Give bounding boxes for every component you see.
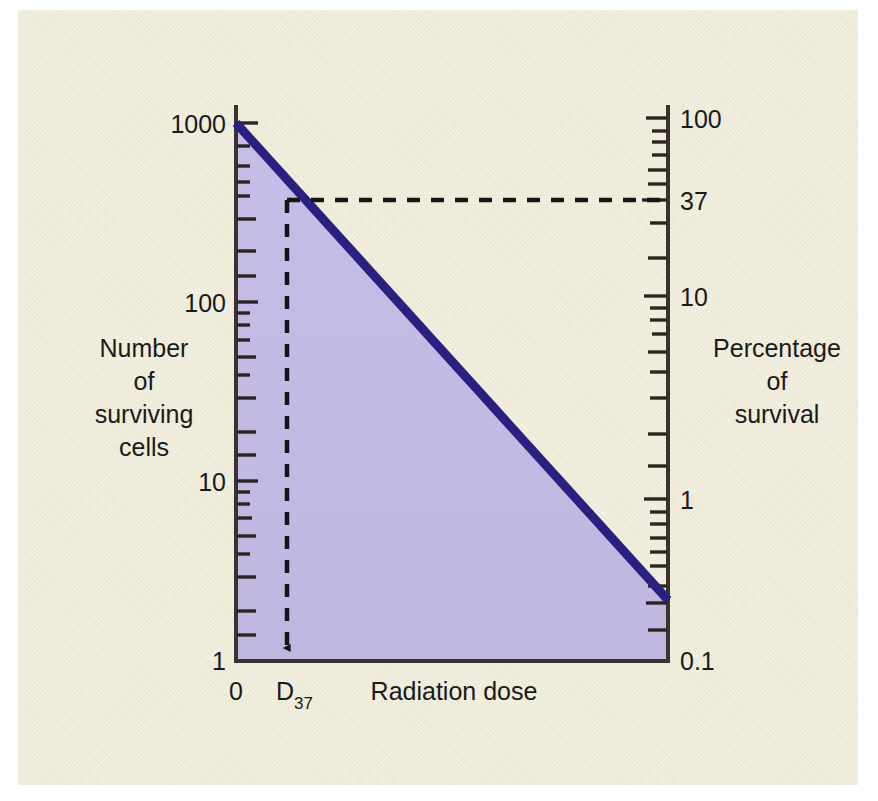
left-axis-title: Number of surviving cells xyxy=(95,334,194,461)
figure-container: 1000 100 10 1 100 37 10 1 0.1 Number of … xyxy=(0,0,878,801)
left-axis-title-line-2: of xyxy=(134,367,155,395)
right-tick-label-100: 100 xyxy=(680,105,722,133)
left-axis-title-line-4: cells xyxy=(119,433,169,461)
right-tick-label-10: 10 xyxy=(680,283,708,311)
survival-curve-chart: 1000 100 10 1 100 37 10 1 0.1 Number of … xyxy=(0,0,878,801)
right-axis-title-line-1: Percentage xyxy=(713,334,841,362)
left-axis-title-line-1: Number xyxy=(100,334,189,362)
left-tick-label-1000: 1000 xyxy=(170,110,226,138)
left-tick-label-1: 1 xyxy=(212,647,226,675)
left-tick-label-10: 10 xyxy=(198,468,226,496)
bottom-axis-labels: 0 D37 Radiation dose xyxy=(229,677,537,713)
x-origin-label: 0 xyxy=(229,677,243,705)
x-axis-title: Radiation dose xyxy=(371,677,538,705)
d37-label-base: D xyxy=(276,677,294,705)
right-axis-title: Percentage of survival xyxy=(713,334,841,428)
right-axis-ticks xyxy=(642,118,667,630)
left-tick-label-100: 100 xyxy=(184,289,226,317)
left-axis-title-line-3: surviving xyxy=(95,400,194,428)
right-tick-label-37: 37 xyxy=(680,187,708,215)
left-tick-labels: 1000 100 10 1 xyxy=(170,110,226,675)
right-tick-labels: 100 37 10 1 0.1 xyxy=(680,105,722,675)
right-axis-title-line-2: of xyxy=(767,367,788,395)
right-tick-label-1: 1 xyxy=(680,486,694,514)
right-axis-title-line-3: survival xyxy=(735,400,820,428)
d37-label-subscript: 37 xyxy=(294,694,313,713)
d37-label: D37 xyxy=(276,677,313,713)
curve-fill-region xyxy=(236,123,668,660)
right-tick-label-0.1: 0.1 xyxy=(680,647,715,675)
